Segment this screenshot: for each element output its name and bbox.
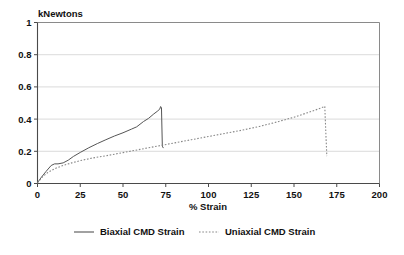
data-series-group bbox=[38, 106, 327, 182]
y-tick-label: 0.2 bbox=[18, 146, 31, 157]
x-tick-label: 175 bbox=[329, 189, 346, 200]
x-axis: 0255075100125150175200 bbox=[35, 184, 388, 200]
y-tick-label: 0.6 bbox=[18, 81, 31, 92]
x-tick-label: 200 bbox=[372, 189, 388, 200]
legend-label-uniaxial: Uniaxial CMD Strain bbox=[225, 226, 315, 237]
x-tick-label: 25 bbox=[75, 189, 86, 200]
plot-frame bbox=[38, 23, 380, 184]
x-tick-label: 150 bbox=[286, 189, 302, 200]
series-line-uniaxial bbox=[38, 106, 327, 182]
series-line-biaxial bbox=[38, 107, 164, 183]
x-tick-label: 125 bbox=[243, 189, 260, 200]
x-axis-title: % Strain bbox=[189, 201, 227, 212]
y-axis: 00.20.40.60.81 bbox=[18, 17, 37, 189]
y-axis-title: kNewtons bbox=[38, 8, 83, 19]
legend-label-biaxial: Biaxial CMD Strain bbox=[100, 226, 185, 237]
gridlines-group bbox=[38, 23, 380, 152]
y-tick-label: 0.8 bbox=[18, 49, 31, 60]
chart-figure: 00.20.40.60.81 0255075100125150175200 kN… bbox=[0, 0, 404, 255]
y-tick-label: 1 bbox=[26, 17, 32, 28]
line-chart-svg: 00.20.40.60.81 0255075100125150175200 kN… bbox=[0, 0, 404, 255]
x-tick-label: 0 bbox=[35, 189, 40, 200]
x-tick-label: 50 bbox=[118, 189, 129, 200]
y-tick-label: 0 bbox=[26, 178, 31, 189]
y-tick-label: 0.4 bbox=[18, 114, 32, 125]
chart-legend: Biaxial CMD StrainUniaxial CMD Strain bbox=[74, 226, 315, 237]
x-tick-label: 75 bbox=[160, 189, 171, 200]
x-tick-label: 100 bbox=[201, 189, 217, 200]
